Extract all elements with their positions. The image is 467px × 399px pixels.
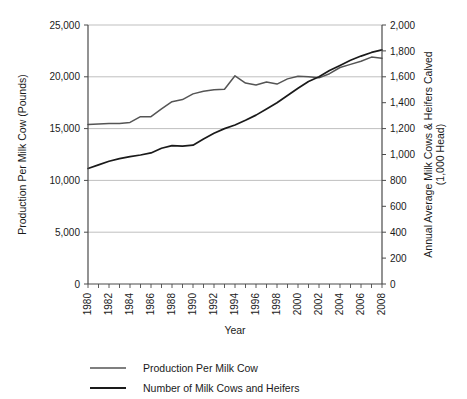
tick-label-x-1992: 1992 — [208, 293, 219, 316]
tick-label-right-1000: 1,000 — [390, 149, 415, 160]
tick-label-right-1600: 1,600 — [390, 71, 415, 82]
tick-label-x-1990: 1990 — [187, 293, 198, 316]
tick-label-left-10000: 10,000 — [49, 175, 80, 186]
y-axis-title: Production Per Milk Cow (Pounds) — [16, 74, 28, 234]
tick-label-x-1984: 1984 — [124, 293, 135, 316]
tick-label-right-1800: 1,800 — [390, 46, 415, 57]
tick-label-right-600: 600 — [390, 201, 407, 212]
tick-label-right-800: 800 — [390, 175, 407, 186]
tick-label-right-0: 0 — [390, 279, 396, 290]
tick-label-x-2008: 2008 — [376, 293, 387, 316]
tick-label-right-1200: 1,200 — [390, 123, 415, 134]
tick-label-x-2000: 2000 — [292, 293, 303, 316]
legend-label-0: Production Per Milk Cow — [143, 362, 258, 374]
tick-label-x-2004: 2004 — [334, 293, 345, 316]
tick-label-x-2006: 2006 — [355, 293, 366, 316]
chart-background — [0, 0, 467, 399]
tick-label-x-1980: 1980 — [82, 293, 93, 316]
legend-label-1: Number of Milk Cows and Heifers — [143, 382, 299, 394]
tick-label-left-5000: 5,000 — [55, 227, 80, 238]
tick-label-x-1982: 1982 — [103, 293, 114, 316]
tick-label-right-2000: 2,000 — [390, 20, 415, 31]
dual-axis-line-chart: 05,00010,00015,00020,00025,0000200400600… — [0, 0, 467, 399]
tick-label-left-25000: 25,000 — [49, 20, 80, 31]
tick-label-right-400: 400 — [390, 227, 407, 238]
tick-label-right-200: 200 — [390, 253, 407, 264]
x-axis-title: Year — [224, 324, 246, 336]
tick-label-x-1998: 1998 — [271, 293, 282, 316]
tick-label-left-15000: 15,000 — [49, 123, 80, 134]
tick-label-x-2002: 2002 — [313, 293, 324, 316]
tick-label-right-1400: 1,400 — [390, 97, 415, 108]
tick-label-x-1988: 1988 — [166, 293, 177, 316]
chart-figure: 05,00010,00015,00020,00025,0000200400600… — [0, 0, 467, 399]
tick-label-x-1996: 1996 — [250, 293, 261, 316]
tick-label-left-0: 0 — [74, 279, 80, 290]
tick-label-x-1986: 1986 — [145, 293, 156, 316]
tick-label-x-1994: 1994 — [229, 293, 240, 316]
tick-label-left-20000: 20,000 — [49, 71, 80, 82]
